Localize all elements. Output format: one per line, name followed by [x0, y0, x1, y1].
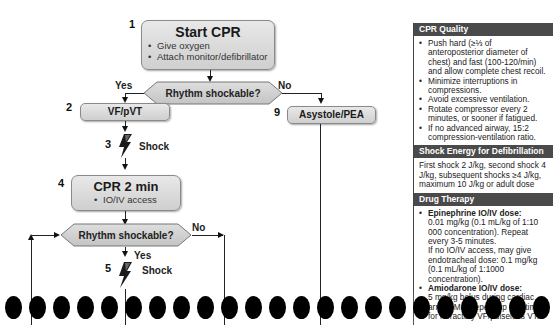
cpr-quality-item: If no advanced airway, 15:2 compression-…: [419, 124, 549, 143]
binder-hole: [29, 296, 46, 319]
binder-hole: [317, 296, 334, 319]
vf-pvt-box: VF/pVT: [80, 103, 170, 121]
epinephrine-text: 0.01 mg/kg (0.1 mL/kg of 1:10 000 concen…: [428, 217, 538, 246]
bullet-attach-monitor: Attach monitor/defibrillator: [148, 51, 274, 62]
arrow-down-icon: [122, 251, 128, 257]
binder-hole: [509, 296, 526, 319]
binder-holes: [0, 296, 553, 320]
binder-hole: [389, 296, 406, 319]
binder-hole: [533, 296, 550, 319]
step-number-9: 9: [274, 106, 280, 118]
cpr-2-min-title: CPR 2 min: [72, 179, 180, 194]
binder-hole: [173, 296, 190, 319]
step-number-2: 2: [66, 101, 72, 113]
binder-hole: [5, 296, 22, 319]
cpr-quality-list: Push hard (≥⅓ of anteroposterior diamete…: [419, 39, 549, 142]
connector-line: [320, 124, 321, 325]
start-cpr-box: Start CPR Give oxygen Attach monitor/def…: [141, 20, 275, 70]
lightning-bolt-icon: [117, 262, 133, 288]
decision-2-text: Rhythm shockable?: [60, 223, 192, 247]
decision-2-yes-label: Yes: [134, 250, 151, 261]
shock-energy-header: Shock Energy for Defibrillation: [414, 145, 553, 158]
step-number-1: 1: [129, 18, 135, 30]
binder-hole: [101, 296, 118, 319]
decision-1-text: Rhythm shockable?: [143, 81, 283, 105]
cpr-2-min-box: CPR 2 min IO/IV access: [71, 175, 181, 211]
decision-rhythm-shockable-2: Rhythm shockable?: [60, 223, 192, 247]
asystole-pea-title: Asystole/PEA: [288, 107, 375, 123]
shock-2-label: Shock: [142, 265, 172, 276]
cpr-2-min-bullets: IO/IV access: [94, 194, 180, 205]
decision-2-no-label: No: [192, 222, 205, 233]
shock-1-label: Shock: [139, 141, 169, 152]
binder-hole: [293, 296, 310, 319]
shock-energy-text: First shock 2 J/kg, second shock 4 J/kg,…: [419, 161, 549, 189]
binder-hole: [341, 296, 358, 319]
binder-hole: [485, 296, 502, 319]
cpr-quality-header: CPR Quality: [414, 23, 553, 36]
binder-hole: [461, 296, 478, 319]
asystole-pea-box: Asystole/PEA: [287, 106, 376, 124]
binder-hole: [125, 296, 142, 319]
binder-hole: [221, 296, 238, 319]
binder-hole: [77, 296, 94, 319]
start-cpr-title: Start CPR: [142, 24, 274, 40]
decision-rhythm-shockable-1: Rhythm shockable?: [143, 81, 283, 105]
bullet-io-iv-access: IO/IV access: [94, 194, 180, 205]
cpr-quality-item: Rotate compressor every 2 minutes, or so…: [419, 105, 549, 124]
binder-hole: [197, 296, 214, 319]
step-number-5: 5: [105, 262, 111, 274]
binder-hole: [245, 296, 262, 319]
drug-therapy-header: Drug Therapy: [414, 193, 553, 206]
info-panel: CPR Quality Push hard (≥⅓ of anteroposte…: [413, 23, 553, 293]
decision-1-no-label: No: [278, 80, 291, 91]
binder-hole: [365, 296, 382, 319]
epinephrine-note: If no IO/IV access, may give endotrachea…: [419, 246, 549, 284]
cpr-quality-item: Push hard (≥⅓ of anteroposterior diamete…: [419, 39, 549, 77]
connector-line: [282, 93, 321, 94]
binder-hole: [413, 296, 430, 319]
vf-pvt-title: VF/pVT: [81, 104, 169, 120]
arrow-down-icon: [318, 98, 324, 104]
arrow-down-icon: [122, 164, 128, 170]
connector-line: [125, 93, 144, 94]
step-number-3: 3: [105, 138, 111, 150]
step-number-4: 4: [58, 177, 64, 189]
lightning-bolt-icon: [117, 134, 133, 158]
arrow-down-icon: [122, 126, 128, 132]
epinephrine-item: Epinephrine IO/IV dose: 0.01 mg/kg (0.1 …: [419, 209, 549, 247]
bullet-give-oxygen: Give oxygen: [148, 40, 274, 51]
shock-energy-body: First shock 2 J/kg, second shock 4 J/kg,…: [414, 158, 553, 192]
binder-hole: [149, 296, 166, 319]
cpr-quality-item: Minimize interruptions in compressions.: [419, 77, 549, 96]
drug-therapy-list: Epinephrine IO/IV dose: 0.01 mg/kg (0.1 …: [419, 209, 549, 247]
binder-hole: [437, 296, 454, 319]
arrow-right-icon: [54, 232, 60, 238]
binder-hole: [53, 296, 70, 319]
start-cpr-bullets: Give oxygen Attach monitor/defibrillator: [148, 40, 274, 62]
binder-hole: [269, 296, 286, 319]
decision-1-yes-label: Yes: [115, 80, 132, 91]
cpr-quality-body: Push hard (≥⅓ of anteroposterior diamete…: [414, 36, 553, 145]
